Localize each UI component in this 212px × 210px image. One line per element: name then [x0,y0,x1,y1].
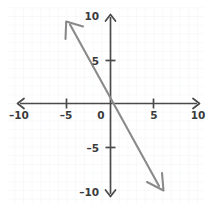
y-tick-label-neg10: –10 [79,186,99,198]
graph-canvas: –10 –5 0 5 10 10 5 –5 –10 [0,0,212,210]
y-tick-label-pos5: 5 [92,55,99,67]
x-tick-label-zero: 0 [97,109,104,121]
x-tick-label-neg10: –10 [9,109,29,121]
grid-background [8,6,204,204]
x-tick-label-pos5: 5 [150,109,157,121]
y-tick-label-neg5: –5 [86,142,99,154]
y-tick-label-pos10: 10 [84,10,99,22]
coordinate-plane-figure: –10 –5 0 5 10 10 5 –5 –10 [0,0,212,210]
x-tick-label-pos10: 10 [191,109,206,121]
x-tick-label-neg5: –5 [60,109,73,121]
